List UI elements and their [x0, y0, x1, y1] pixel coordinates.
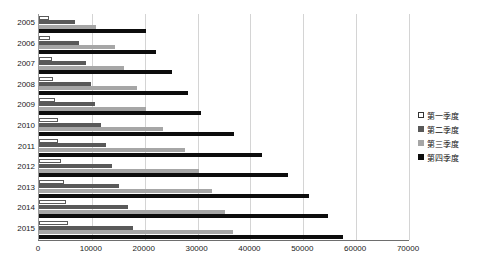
- bar-2005-q2: [39, 20, 75, 24]
- legend-item-q2[interactable]: 第二季度: [418, 122, 488, 136]
- bar-group: [39, 137, 408, 158]
- bar-2011-q3: [39, 148, 185, 152]
- bar-2015-q2: [39, 226, 133, 230]
- bar-2014-q1: [39, 200, 66, 204]
- y-tick-label-2015: 2015: [0, 224, 35, 233]
- x-tick-label-20000: 20000: [133, 244, 155, 253]
- legend-swatch-icon-q2: [418, 126, 424, 132]
- bar-2010-q2: [39, 123, 101, 127]
- bar-group: [39, 55, 408, 76]
- x-tick-label-70000: 70000: [397, 244, 419, 253]
- legend-label-q1: 第一季度: [427, 110, 459, 121]
- bar-2011-q1: [39, 139, 58, 143]
- bar-2010-q4: [39, 132, 234, 136]
- bar-2013-q4: [39, 194, 309, 198]
- y-tick-label-2013: 2013: [0, 183, 35, 192]
- y-tick-label-2011: 2011: [0, 142, 35, 151]
- bar-group: [39, 178, 408, 199]
- bar-2005-q1: [39, 16, 49, 20]
- x-tick-label-30000: 30000: [185, 244, 207, 253]
- y-tick-label-2014: 2014: [0, 203, 35, 212]
- bar-2006-q4: [39, 50, 156, 54]
- bar-group: [39, 199, 408, 220]
- bar-2006-q1: [39, 36, 50, 40]
- bar-group: [39, 35, 408, 56]
- legend-item-q1[interactable]: 第一季度: [418, 108, 488, 122]
- bar-2006-q3: [39, 45, 115, 49]
- bar-2010-q3: [39, 127, 163, 131]
- x-tick-label-60000: 60000: [344, 244, 366, 253]
- bar-group: [39, 14, 408, 35]
- bar-2009-q4: [39, 111, 201, 115]
- bar-2009-q1: [39, 98, 55, 102]
- bar-2008-q4: [39, 91, 188, 95]
- bar-group: [39, 76, 408, 97]
- bar-2009-q3: [39, 107, 146, 111]
- y-tick-label-2006: 2006: [0, 39, 35, 48]
- plot-area: [38, 14, 408, 240]
- chart-title: [80, 0, 380, 8]
- bar-2012-q2: [39, 164, 112, 168]
- bar-2008-q2: [39, 82, 91, 86]
- bar-2007-q3: [39, 66, 124, 70]
- bar-2012-q1: [39, 159, 61, 163]
- bar-2013-q3: [39, 189, 212, 193]
- bar-group: [39, 96, 408, 117]
- chart-legend: 第一季度第二季度第三季度第四季度: [418, 108, 488, 164]
- gridline: [409, 14, 410, 240]
- y-axis-labels: 2005200620072008200920102011201220132014…: [0, 14, 35, 240]
- bar-2008-q3: [39, 86, 137, 90]
- x-axis-line: [38, 240, 409, 241]
- x-tick-label-40000: 40000: [238, 244, 260, 253]
- legend-label-q2: 第二季度: [427, 124, 459, 135]
- bar-group: [39, 158, 408, 179]
- bar-2014-q4: [39, 214, 328, 218]
- x-tick-label-10000: 10000: [80, 244, 102, 253]
- bar-group: [39, 117, 408, 138]
- bar-2015-q4: [39, 235, 343, 239]
- y-tick-label-2010: 2010: [0, 121, 35, 130]
- legend-item-q4[interactable]: 第四季度: [418, 150, 488, 164]
- bar-2015-q3: [39, 230, 233, 234]
- bar-2014-q3: [39, 210, 225, 214]
- legend-item-q3[interactable]: 第三季度: [418, 136, 488, 150]
- bar-2012-q4: [39, 173, 288, 177]
- bar-2013-q2: [39, 184, 119, 188]
- bar-2013-q1: [39, 180, 64, 184]
- bar-2005-q3: [39, 25, 96, 29]
- bar-2011-q2: [39, 143, 106, 147]
- x-tick-label-0: 0: [36, 244, 40, 253]
- bar-2011-q4: [39, 153, 262, 157]
- legend-label-q4: 第四季度: [427, 152, 459, 163]
- bar-2009-q2: [39, 102, 95, 106]
- legend-swatch-icon-q1: [418, 112, 424, 118]
- bar-2007-q2: [39, 61, 86, 65]
- legend-swatch-icon-q3: [418, 140, 424, 146]
- bar-2007-q4: [39, 70, 172, 74]
- bar-group: [39, 219, 408, 240]
- bar-2014-q2: [39, 205, 128, 209]
- bar-chart: 2005200620072008200920102011201220132014…: [0, 0, 489, 270]
- bar-2007-q1: [39, 57, 52, 61]
- x-axis-labels: 010000200003000040000500006000070000: [38, 244, 409, 256]
- legend-label-q3: 第三季度: [427, 138, 459, 149]
- bar-2015-q1: [39, 221, 68, 225]
- y-tick-label-2009: 2009: [0, 100, 35, 109]
- bar-2010-q1: [39, 118, 58, 122]
- legend-swatch-icon-q4: [418, 154, 424, 160]
- y-tick-label-2012: 2012: [0, 162, 35, 171]
- bar-2006-q2: [39, 41, 79, 45]
- y-tick-label-2007: 2007: [0, 59, 35, 68]
- x-tick-label-50000: 50000: [291, 244, 313, 253]
- bar-2012-q3: [39, 169, 199, 173]
- y-tick-label-2005: 2005: [0, 18, 35, 27]
- bar-2008-q1: [39, 77, 53, 81]
- bar-2005-q4: [39, 29, 146, 33]
- y-tick-label-2008: 2008: [0, 80, 35, 89]
